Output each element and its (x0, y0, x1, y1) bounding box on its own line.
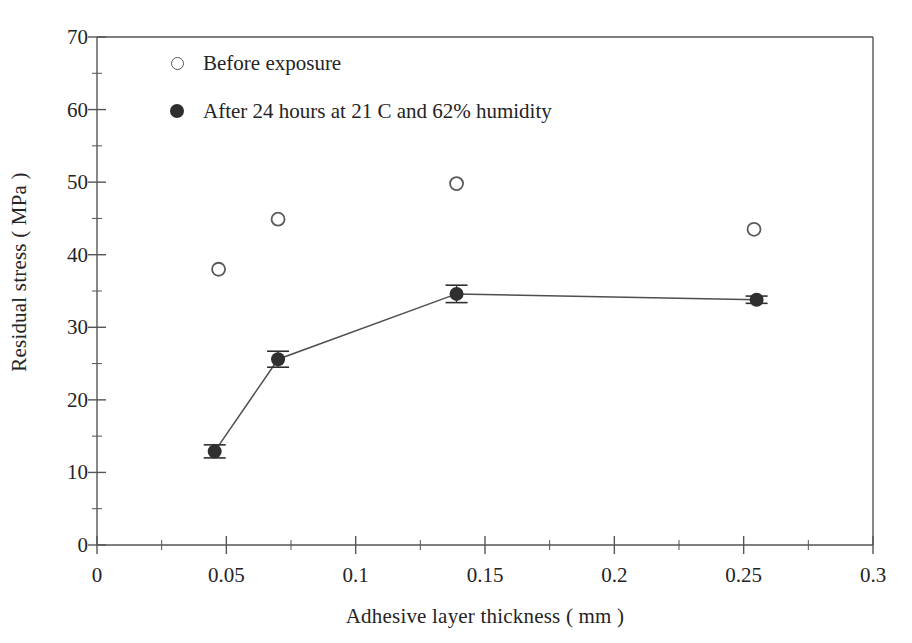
data-point-filled (750, 293, 764, 307)
data-point-open (450, 177, 463, 190)
data-point-filled (208, 444, 222, 458)
data-point-open (272, 213, 285, 226)
plot-area (0, 0, 912, 643)
data-point-open (212, 263, 225, 276)
series-line-1 (215, 294, 757, 451)
data-point-filled (271, 352, 285, 366)
data-point-filled (450, 287, 464, 301)
data-point-open (748, 223, 761, 236)
figure-residual-stress-vs-adhesive-thickness: Residual stress ( MPa ) Adhesive layer t… (0, 0, 912, 643)
